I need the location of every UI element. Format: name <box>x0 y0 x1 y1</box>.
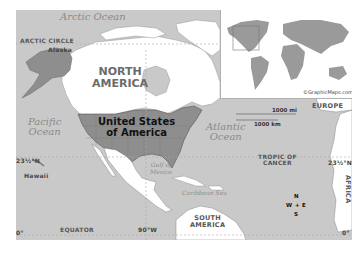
africa <box>330 110 352 232</box>
usa-label: United States of America <box>98 117 175 138</box>
usa-line1: United States <box>98 117 175 128</box>
pacific-line2: Ocean <box>28 127 61 137</box>
world-inset-shapes <box>221 10 352 98</box>
equator-lat-left-label: 0° <box>16 230 24 236</box>
compass-s: S <box>294 212 298 218</box>
caribbean-sea-label: Caribbean Sea <box>182 190 227 197</box>
tropic-line2: CANCER <box>258 160 297 166</box>
north-america-line2: AMERICA <box>92 78 148 90</box>
scale-km-label: 1000 km <box>254 122 281 128</box>
cuba <box>172 176 206 186</box>
tropic-of-cancer-label: TROPIC OF CANCER <box>258 154 297 166</box>
inset-south-america <box>251 56 269 90</box>
compass-w: W <box>286 203 292 209</box>
alaska-label: Alaska <box>48 47 72 53</box>
tropic-lat-left-label: 23½°N <box>16 158 40 164</box>
equator-lat-right-label: 0° <box>342 230 350 236</box>
credit-text: ©GraphicMaps.com <box>303 90 352 95</box>
scale-miles-label: 1000 mi <box>272 108 297 114</box>
compass-e: E <box>302 203 306 209</box>
map-frame: ©GraphicMaps.com Arctic Ocean ARCTIC CIR… <box>16 10 352 240</box>
europe-label: EUROPE <box>312 103 343 110</box>
africa-label: AFRICA <box>344 175 351 204</box>
arctic-ocean-label: Arctic Ocean <box>60 12 126 22</box>
world-inset-map: ©GraphicMaps.com <box>220 10 352 99</box>
usa-line2: of America <box>98 128 175 139</box>
atlantic-line2: Ocean <box>206 132 245 142</box>
inset-north-america <box>227 20 269 52</box>
gulf-of-mexico-label: Gulf of Mexico <box>150 162 172 175</box>
arctic-circle-label: ARCTIC CIRCLE <box>20 38 74 44</box>
south-america-line2: AMERICA <box>190 222 225 229</box>
meridian-90w-label: 90°W <box>138 227 157 233</box>
north-america-line1: NORTH <box>92 66 148 78</box>
atlantic-ocean-label: Atlantic Ocean <box>206 122 245 142</box>
alaska <box>22 48 72 98</box>
pacific-ocean-label: Pacific Ocean <box>28 117 61 137</box>
compass-rose: N W + E S <box>286 194 308 220</box>
inset-australia <box>329 66 347 80</box>
tropic-lat-right-label: 23½°N <box>328 160 352 166</box>
compass-center-icon: + <box>295 203 300 209</box>
hawaii-label: Hawaii <box>24 173 49 179</box>
south-america-label: SOUTH AMERICA <box>190 215 225 228</box>
gulf-line2: Mexico <box>150 169 172 176</box>
compass-n: N <box>294 194 299 200</box>
inset-africa <box>281 44 305 80</box>
equator-label: EQUATOR <box>60 227 94 233</box>
north-america-label: NORTH AMERICA <box>92 66 148 89</box>
scale-bar <box>236 114 296 120</box>
